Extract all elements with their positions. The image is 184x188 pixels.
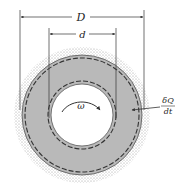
inner-diameter-label: d xyxy=(79,29,85,40)
outer-diameter-label: D xyxy=(76,11,86,24)
heat-rate-label: δQ dt xyxy=(161,96,175,116)
angular-velocity-label: ω xyxy=(77,101,85,111)
heat-rate-numerator: δQ xyxy=(162,96,174,105)
annulus-diagram: D d ω δQ dt xyxy=(0,0,184,188)
annulus-ring xyxy=(22,55,142,175)
heat-rate-denominator: dt xyxy=(164,107,173,116)
